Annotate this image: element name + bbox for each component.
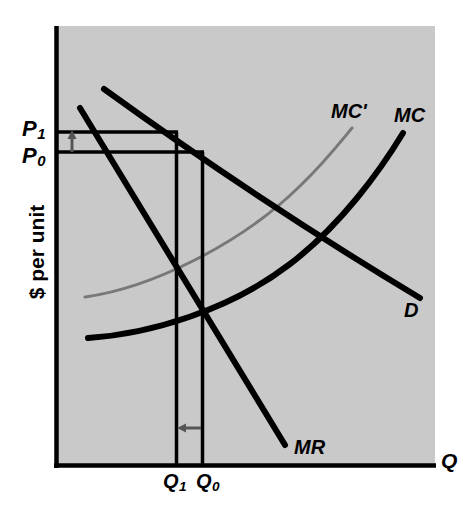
x-tick-label-q1: Q1	[163, 471, 187, 494]
x-axis-title: Q	[441, 450, 457, 471]
y-tick-label-p1: P1	[22, 118, 46, 142]
x-tick-label-q0: Q0	[196, 471, 220, 494]
curve-label-marginal-revenue: MR	[294, 437, 325, 457]
y-tick-label-p0: P0	[22, 145, 46, 169]
x-tick-q0-subscript: 0	[212, 479, 220, 494]
y-tick-p0-subscript: 0	[37, 152, 45, 169]
y-tick-p1-letter: P	[22, 116, 37, 141]
y-tick-p0-letter: P	[22, 143, 37, 168]
x-tick-q0-letter: Q	[196, 470, 212, 492]
chart-canvas	[0, 0, 475, 515]
curve-label-mc: MC	[394, 105, 425, 125]
x-tick-q1-subscript: 1	[179, 479, 187, 494]
y-axis-title: $ per unit	[25, 192, 49, 312]
y-tick-p1-subscript: 1	[37, 125, 45, 142]
curve-label-mc-shifted: MC'	[331, 101, 367, 121]
plot-background	[57, 26, 435, 467]
economics-figure: $ per unit P1 P0 Q1 Q0 Q MC' MC D MR	[0, 0, 475, 515]
x-tick-q1-letter: Q	[163, 470, 179, 492]
curve-label-demand: D	[404, 300, 418, 320]
